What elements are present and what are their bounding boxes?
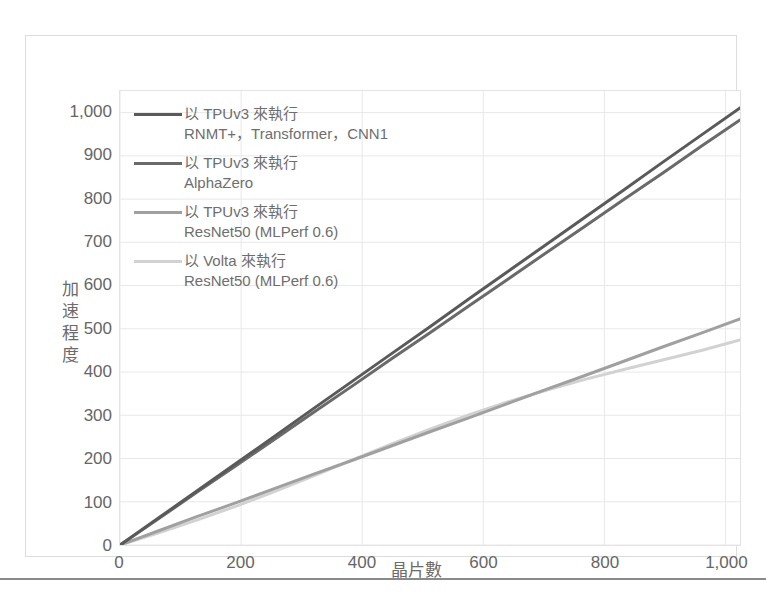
legend-entry[interactable]: 以 TPUv3 來執行RNMT+，Transformer，CNN1 (134, 104, 424, 144)
legend-color-swatch (134, 162, 182, 165)
series-line (120, 340, 740, 545)
legend-entry[interactable]: 以 TPUv3 來執行ResNet50 (MLPerf 0.6) (134, 202, 424, 242)
x-axis-tick-label: 200 (226, 554, 254, 572)
legend-label-line1: 以 Volta 來執行 (184, 251, 286, 271)
legend-entry[interactable]: 以 Volta 來執行ResNet50 (MLPerf 0.6) (134, 251, 424, 291)
x-axis-tick-label: 1,000 (705, 554, 748, 572)
page-divider-rule (0, 578, 766, 580)
chart-legend: 以 TPUv3 來執行RNMT+，Transformer，CNN1以 TPUv3… (134, 104, 424, 300)
legend-label-line2: ResNet50 (MLPerf 0.6) (134, 271, 424, 291)
x-axis-tick-label: 0 (114, 554, 123, 572)
x-axis-tick-label: 800 (591, 554, 619, 572)
y-axis-tick-label: 100 (40, 494, 112, 511)
legend-label-line2: AlphaZero (134, 173, 424, 193)
legend-color-swatch (134, 211, 182, 214)
y-axis-tick-label: 700 (40, 233, 112, 250)
x-axis-tick-label: 400 (348, 554, 376, 572)
legend-label-line1: 以 TPUv3 來執行 (184, 202, 298, 222)
y-axis-tick-label: 900 (40, 146, 112, 163)
legend-entry[interactable]: 以 TPUv3 來執行AlphaZero (134, 153, 424, 193)
legend-label-line1: 以 TPUv3 來執行 (184, 153, 298, 173)
legend-label-line2: RNMT+，Transformer，CNN1 (134, 124, 424, 144)
y-axis-tick-label: 300 (40, 407, 112, 424)
y-axis-tick-label: 1,000 (40, 103, 112, 120)
y-axis-tick-label: 0 (40, 537, 112, 554)
legend-label-line1: 以 TPUv3 來執行 (184, 104, 298, 124)
series-line (120, 319, 740, 545)
y-axis-tick-label: 800 (40, 190, 112, 207)
figure-root: 01002003004005006007008009001,000 加速程度 0… (0, 0, 766, 591)
legend-color-swatch (134, 260, 182, 263)
x-axis-tick-label: 600 (469, 554, 497, 572)
legend-label-line2: ResNet50 (MLPerf 0.6) (134, 222, 424, 242)
legend-color-swatch (134, 113, 182, 116)
y-axis-tick-label: 200 (40, 450, 112, 467)
y-axis-title: 加速程度 (58, 279, 82, 367)
chart-frame: 01002003004005006007008009001,000 加速程度 0… (25, 35, 737, 557)
